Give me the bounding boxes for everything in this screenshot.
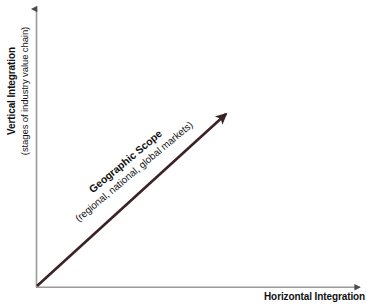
x-axis-title: Horizontal Integration	[264, 291, 365, 302]
diagram-canvas	[0, 0, 367, 306]
y-axis-subtitle: (stages of industry value chain)	[18, 3, 31, 179]
geographic-scope-arrow	[37, 114, 226, 286]
y-axis-label: Vertical Integration (stages of industry…	[5, 3, 35, 179]
y-axis-title: Vertical Integration	[5, 3, 18, 179]
scope-diagram: Vertical Integration (stages of industry…	[0, 0, 367, 306]
